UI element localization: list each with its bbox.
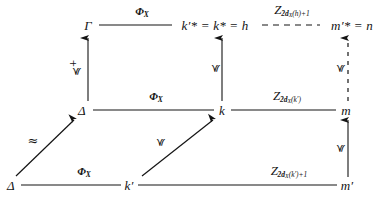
- commutative-diagram: Γ k′* = k* = h m′* = n Δ k m Δ k′ m′ ΦX …: [0, 0, 386, 200]
- edge-label-m-to-n: ≼: [336, 63, 345, 74]
- edge-label-delta-to-gamma: ≼+: [67, 61, 84, 76]
- edge-label-deltabot-to-kprime: ΦX: [77, 166, 91, 178]
- node-n-top: m′* = n: [331, 19, 373, 32]
- edge-label-kprime-to-mprime: Z2dX(k′)+1: [271, 164, 308, 180]
- node-delta-bottom: Δ: [7, 179, 15, 192]
- node-mprime-bottom: m′: [341, 179, 354, 192]
- edge-deltabot-to-deltamid: [16, 120, 74, 176]
- edge-label-k-to-h: ≼: [211, 63, 220, 74]
- edge-label-delta-to-k: ΦX: [149, 91, 163, 103]
- edge-label-mprime-to-m: ≼: [336, 143, 345, 154]
- node-kprime-bottom: k′: [124, 179, 133, 192]
- edge-label-deltabot-to-deltamid: ≈: [28, 134, 39, 147]
- node-k-mid: k: [219, 104, 225, 117]
- node-delta-mid: Δ: [78, 104, 86, 117]
- node-gamma-top: Γ: [84, 19, 92, 32]
- edge-label-h-to-n: Z2dX(h)+1: [274, 3, 309, 19]
- edge-label-k-to-m: Z2dX(k′): [273, 89, 301, 105]
- edge-label-kprime-to-k: ≼: [156, 137, 165, 148]
- node-h-top: k′* = k* = h: [182, 19, 249, 32]
- edge-kprime-to-k: [142, 120, 213, 176]
- node-m-mid: m: [341, 104, 351, 117]
- edge-label-gamma-to-h: ΦX: [135, 6, 149, 18]
